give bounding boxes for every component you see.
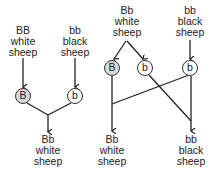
- offspring-label-Bb-right: Bb white sheep: [87, 134, 137, 167]
- gamete-label: b: [165, 62, 215, 73]
- parent-label-Bb: Bb white sheep: [102, 5, 152, 38]
- offspring-label-bb-right: bb black sheep: [166, 134, 216, 167]
- right-panel-lines: [112, 40, 191, 131]
- parent-label-BB: BB white sheep: [0, 25, 48, 58]
- parent-label-bb: bb black sheep: [50, 25, 100, 58]
- offspring-label-Bb: Bb white sheep: [23, 134, 73, 167]
- gamete-label: B: [0, 90, 48, 101]
- gamete-label: b: [120, 62, 170, 73]
- parent-label-bb-right: bb black sheep: [165, 5, 215, 38]
- gamete-label: b: [50, 90, 100, 101]
